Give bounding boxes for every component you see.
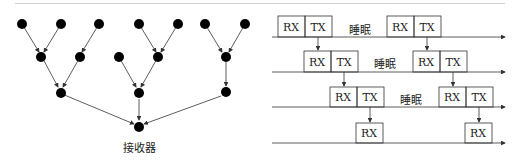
sensor-node (173, 19, 183, 29)
sensor-node (200, 19, 210, 29)
timing-diagram (272, 16, 505, 143)
sensor-node (75, 52, 85, 62)
sensor-node (36, 52, 46, 62)
tx-box: TX (471, 91, 486, 104)
tx-box: TX (310, 21, 325, 34)
rx-box: RX (444, 91, 460, 104)
rx-box: RX (335, 91, 351, 104)
sensor-node (240, 19, 250, 29)
sensor-node (221, 52, 231, 62)
sensor-node (94, 19, 104, 29)
rx-box: RX (309, 56, 325, 69)
tx-box: TX (362, 91, 377, 104)
timing-labels: RX TX 睡眠 RX TX RX TX 睡眠 RX TX RX TX 睡眠 R… (283, 21, 487, 140)
sensor-node (56, 88, 66, 98)
rx-box: RX (283, 21, 299, 34)
sensor-node (134, 88, 144, 98)
sensor-node (153, 52, 163, 62)
sleep-label: 睡眠 (349, 24, 371, 37)
sensor-node (56, 19, 66, 29)
rx-box: RX (470, 127, 486, 140)
tx-box: TX (419, 21, 434, 34)
receiver-node (134, 122, 144, 132)
tx-box: TX (445, 56, 460, 69)
aggregation-tree (22, 24, 245, 124)
sleep-label: 睡眠 (400, 94, 422, 107)
rx-box: RX (392, 21, 408, 34)
rx-box: RX (361, 127, 377, 140)
receiver-label: 接收器 (123, 141, 156, 155)
sensor-node (134, 19, 144, 29)
rx-box: RX (418, 56, 434, 69)
sensor-node (17, 19, 27, 29)
tx-box: TX (336, 56, 351, 69)
sleep-label: 睡眠 (374, 58, 396, 71)
sensor-node (221, 87, 231, 97)
sensor-node (114, 52, 124, 62)
diagram-canvas: 接收器 RX TX 睡眠 RX TX RX TX (0, 0, 517, 161)
